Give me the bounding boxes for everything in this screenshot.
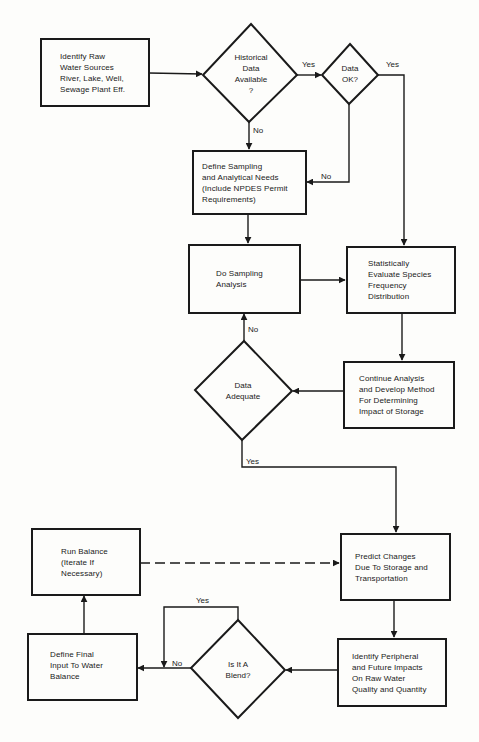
process-label: Predict Changes Due To Storage and Trans… [355,551,428,584]
edge-label-historical-yes: Yes [302,60,315,70]
edge-label-data-adequate-no: No [248,325,258,335]
process-label: Identify Peripheral and Future Impacts O… [352,651,426,695]
process-label: Identify Raw Water Sources River, Lake, … [60,51,125,95]
process-label: Continue Analysis and Develop Method For… [359,373,435,417]
decision-historical-data-label: Historical Data Available ? [235,52,268,96]
flowchart-canvas: Identify Raw Water Sources River, Lake, … [0,0,479,742]
process-define-final-input: Define Final Input To Water Balance [27,633,138,701]
edge-label-data-ok-no: No [321,172,331,182]
process-continue-analysis: Continue Analysis and Develop Method For… [343,361,455,429]
process-predict-changes: Predict Changes Due To Storage and Trans… [340,533,451,601]
process-identify-peripheral: Identify Peripheral and Future Impacts O… [337,638,447,707]
process-label: Run Balance (Iterate If Necessary) [61,546,108,579]
process-run-balance: Run Balance (Iterate If Necessary) [31,528,141,596]
process-label: Define Sampling and Analytical Needs (In… [202,161,288,205]
process-statistically-evaluate: Statistically Evaluate Species Frequency… [346,246,456,314]
edge-label-blend-no: No [172,659,182,669]
decision-is-blend-label: Is It A Blend? [226,659,251,681]
process-do-sampling: Do Sampling Analysis [188,244,301,314]
process-identify-raw-water: Identify Raw Water Sources River, Lake, … [40,38,150,107]
process-label: Statistically Evaluate Species Frequency… [368,258,431,302]
edge-label-blend-yes: Yes [196,596,209,606]
edge-label-historical-no: No [253,126,263,136]
process-define-sampling: Define Sampling and Analytical Needs (In… [192,150,307,215]
decision-data-adequate-label: Data Adequate [226,380,260,402]
process-label: Do Sampling Analysis [216,268,263,290]
edge-label-data-ok-yes: Yes [386,60,399,70]
decision-data-ok-label: Data OK? [342,63,359,85]
process-label: Define Final Input To Water Balance [50,649,103,682]
edge-label-data-adequate-yes: Yes [246,457,259,467]
